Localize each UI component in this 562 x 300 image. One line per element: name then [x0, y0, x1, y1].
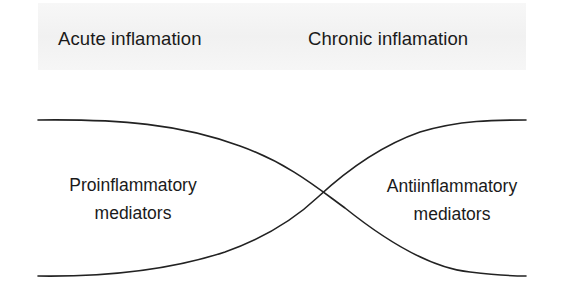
antiinflammatory-mediators-label: Antiinflammatory mediators: [352, 172, 552, 228]
antiinflammatory-line2: mediators: [352, 200, 552, 228]
crossing-curves: [0, 0, 562, 300]
proinflammatory-line1: Proinflammatory: [33, 171, 233, 199]
proinflammatory-line2: mediators: [33, 199, 233, 227]
antiinflammatory-line1: Antiinflammatory: [352, 172, 552, 200]
proinflammatory-mediators-label: Proinflammatory mediators: [33, 171, 233, 227]
